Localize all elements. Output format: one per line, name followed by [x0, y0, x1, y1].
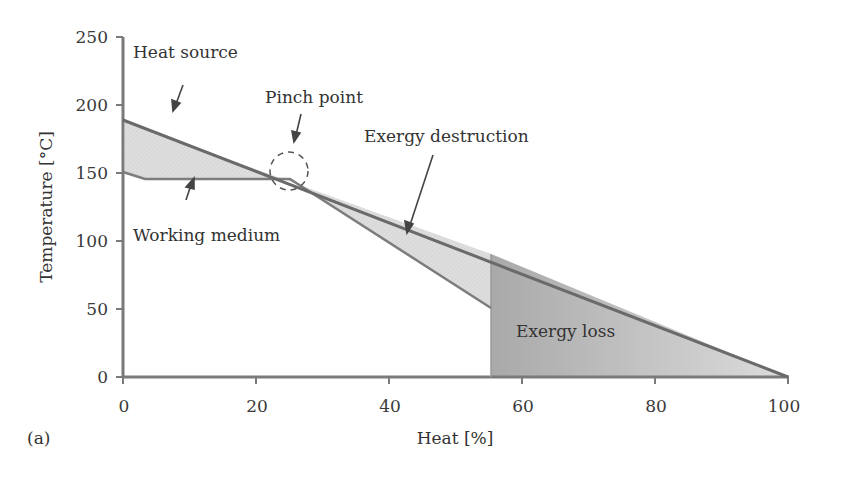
y-tick-100: 100	[76, 231, 108, 251]
panel-label: (a)	[27, 428, 50, 448]
exergy-destruction-region	[125, 122, 491, 307]
exergy-destruction-label: Exergy destruction	[364, 126, 529, 146]
y-tick-200: 200	[76, 95, 108, 115]
x-tick-0: 0	[119, 396, 130, 416]
x-tick-80: 80	[645, 396, 667, 416]
x-tick-40: 40	[379, 396, 401, 416]
working-medium-label: Working medium	[133, 225, 280, 245]
pinch-point-label: Pinch point	[265, 87, 363, 107]
y-tick-250: 250	[76, 27, 108, 47]
heat-source-label: Heat source	[133, 42, 238, 62]
x-axis-title: Heat [%]	[417, 428, 494, 448]
x-tick-60: 60	[512, 396, 534, 416]
y-tick-50: 50	[86, 299, 108, 319]
y-tick-150: 150	[76, 163, 108, 183]
x-tick-20: 20	[246, 396, 268, 416]
x-tick-100: 100	[768, 396, 800, 416]
chart-svg: 250 200 150 100 50 0 0 20 40 60 80 100 H…	[0, 0, 842, 479]
y-tick-0: 0	[97, 367, 108, 387]
exergy-loss-label: Exergy loss	[516, 321, 615, 341]
heat-source-line	[123, 120, 788, 377]
y-axis-title: Temperature [°C]	[36, 131, 56, 283]
